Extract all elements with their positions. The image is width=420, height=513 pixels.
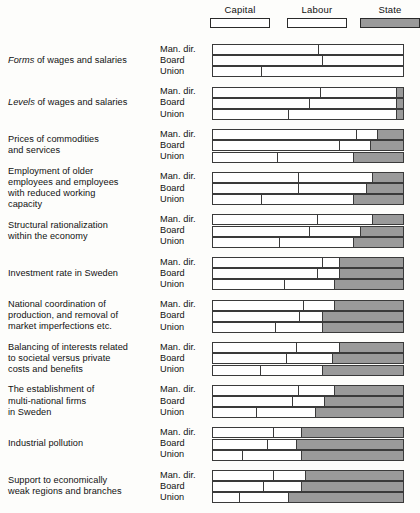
category-label-line: costs and benefits	[8, 364, 158, 375]
bar-row	[212, 237, 404, 248]
actor-label: Board	[160, 225, 208, 236]
bar-segment-labour	[357, 130, 378, 139]
bar-row	[212, 44, 404, 55]
bar-row	[212, 427, 404, 438]
category-label: Forms of wages and salaries	[8, 55, 158, 66]
bar-row	[212, 396, 404, 407]
bar-segment-capital	[213, 312, 300, 321]
actor-label: Board	[160, 438, 208, 449]
bar-segment-labour	[257, 408, 316, 417]
actor-label: Union	[160, 449, 208, 460]
bar-row	[212, 279, 404, 290]
bar-segment-state	[325, 397, 403, 406]
bar-segment-labour	[243, 451, 302, 460]
bar-segment-state	[340, 258, 403, 267]
bar-segment-capital	[213, 301, 304, 310]
actor-label: Union	[160, 66, 208, 77]
category-label-line: Forms of wages and salaries	[8, 55, 158, 66]
bar-segment-state	[323, 366, 403, 375]
bar-segment-state	[335, 386, 403, 395]
bar-segment-labour	[304, 301, 334, 310]
bar-row	[212, 407, 404, 418]
bar-segment-labour	[340, 141, 370, 150]
category-label: Support to economicallyweak regions and …	[8, 475, 158, 497]
bar-segment-state	[323, 323, 403, 332]
bar-segment-labour	[268, 440, 297, 449]
bar-row	[212, 311, 404, 322]
bar-segment-labour	[321, 88, 397, 97]
bar-segment-capital	[213, 440, 268, 449]
bar-segment-capital	[213, 88, 321, 97]
actor-label: Board	[160, 183, 208, 194]
bar-segment-state	[361, 227, 403, 236]
bar-segment-capital	[213, 227, 310, 236]
bar-segment-labour	[285, 280, 334, 289]
bar-segment-capital	[213, 130, 357, 139]
category-label-line: Industrial pollution	[8, 438, 158, 449]
category-label-line: Levels of wages and salaries	[8, 97, 158, 108]
bar-segment-labour	[240, 493, 289, 502]
category-label-line: Employment of older	[8, 166, 158, 177]
bar-segment-capital	[213, 366, 261, 375]
bar-segment-labour	[262, 67, 403, 76]
bar-row	[212, 385, 404, 396]
bar-segment-capital	[213, 354, 287, 363]
bar-row	[212, 87, 404, 98]
bar-segment-capital	[213, 184, 299, 193]
bar-row	[212, 342, 404, 353]
category-label: Levels of wages and salaries	[8, 97, 158, 108]
actor-label: Union	[160, 492, 208, 503]
bar-row	[212, 194, 404, 205]
bar-segment-state	[302, 482, 403, 491]
bar-segment-state	[397, 88, 403, 97]
category-label-line: production, and removal of	[8, 310, 158, 321]
bar-row	[212, 470, 404, 481]
category-label-line: The establishment of	[8, 384, 158, 395]
category-label-line: Support to economically	[8, 475, 158, 486]
bar-segment-capital	[213, 386, 299, 395]
category-label-line: Structural rationalization	[8, 220, 158, 231]
bar-segment-state	[289, 493, 403, 502]
bar-segment-labour	[300, 312, 323, 321]
bar-segment-state	[302, 428, 403, 437]
actor-label: Board	[160, 140, 208, 151]
bar-segment-capital	[213, 56, 323, 65]
bar-row	[212, 129, 404, 140]
bar-segment-state	[354, 195, 403, 204]
bar-segment-state	[335, 280, 403, 289]
actor-label: Board	[160, 396, 208, 407]
bar-segment-capital	[213, 153, 278, 162]
bar-segment-labour	[299, 386, 335, 395]
category-label-line: Investment rate in Sweden	[8, 268, 158, 279]
bar-row	[212, 66, 404, 77]
bar-row	[212, 226, 404, 237]
bar-segment-capital	[213, 141, 340, 150]
category-emphasis: Forms	[8, 55, 34, 65]
actor-label: Man. dir.	[160, 44, 208, 55]
bar-segment-labour	[276, 323, 324, 332]
bar-segment-state	[373, 215, 403, 224]
bar-row	[212, 365, 404, 376]
bar-segment-labour	[264, 482, 302, 491]
bar-segment-state	[371, 141, 403, 150]
bar-segment-capital	[213, 215, 318, 224]
bar-segment-state	[323, 312, 403, 321]
bar-segment-labour	[274, 428, 303, 437]
bar-segment-state	[340, 269, 403, 278]
category-label-line: Prices of commodities	[8, 134, 158, 145]
category-label: Balancing of interests relatedto societa…	[8, 342, 158, 375]
actor-label: Board	[160, 310, 208, 321]
category-label: Prices of commoditiesand services	[8, 134, 158, 156]
bar-segment-labour	[323, 258, 340, 267]
bar-segment-state	[340, 343, 403, 352]
bar-segment-capital	[213, 493, 240, 502]
category-label: Industrial pollution	[8, 438, 158, 449]
bar-segment-labour	[299, 173, 373, 182]
category-label: National coordination ofproduction, and …	[8, 299, 158, 332]
bar-row	[212, 481, 404, 492]
bar-row	[212, 300, 404, 311]
bar-segment-capital	[213, 269, 318, 278]
bar-segment-state	[378, 130, 403, 139]
bar-row	[212, 268, 404, 279]
category-label-line: in Sweden	[8, 407, 158, 418]
